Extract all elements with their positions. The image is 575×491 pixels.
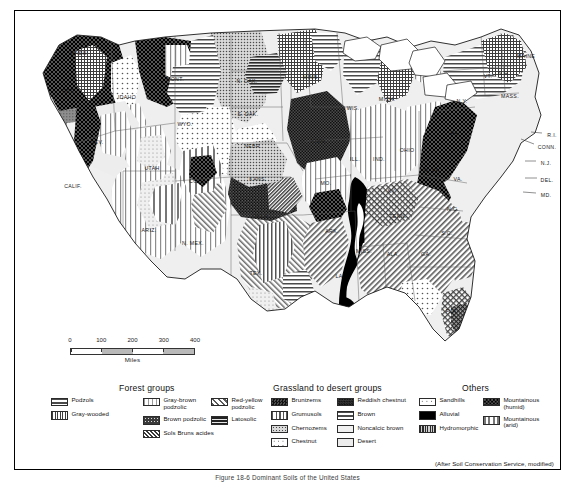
state-label: IND. — [373, 156, 385, 162]
legend-item-label: Noncalcic brown — [357, 424, 403, 431]
state-label: IDAHO — [118, 94, 136, 100]
state-label: CALIF. — [64, 183, 82, 189]
state-label: VT. — [484, 73, 493, 79]
legend-item-label: Gray-brown podzolic — [163, 397, 196, 410]
state-label: WIS. — [347, 105, 360, 111]
legend-swatch-sparse-dots-white — [419, 398, 436, 407]
state-label: TENN. — [389, 213, 406, 219]
legend-item[interactable]: Red-yellow podzolic — [211, 397, 263, 413]
scale-tick-label: 200 — [127, 337, 137, 343]
legend-column: Gray-brown podzolicBrown podzolicSols Br… — [143, 397, 214, 443]
legend-item[interactable]: Brown podzolic — [143, 416, 214, 427]
legend-item-label: Reddish chestnut — [357, 397, 406, 404]
legend-item[interactable]: Mountainous (humid) — [483, 397, 539, 413]
legend-swatch-light-dots — [337, 425, 354, 434]
legend-item[interactable]: Sandhills — [419, 397, 479, 408]
legend-item[interactable]: Gray-wooded — [51, 411, 109, 422]
state-label: ILL. — [350, 156, 360, 162]
figure-page: NEV.UTAHARIZ.COLO.N. MEX.WYO.MONT.IDAHOO… — [0, 0, 575, 491]
legend-swatch-plain-light — [337, 438, 354, 447]
state-label: S. DAK. — [238, 111, 259, 117]
legend-column: Reddish chestnutBrownNoncalcic brownDese… — [337, 397, 406, 451]
legend-item[interactable]: Hydromorphic — [419, 424, 479, 435]
state-label: DEL. — [541, 177, 554, 183]
legend-item[interactable]: Chestnut — [271, 438, 327, 449]
legend-item-label: Chestnut — [291, 438, 316, 445]
state-label: WYO. — [177, 121, 192, 127]
state-label: OKLA. — [252, 213, 269, 219]
state-label: IOWA — [310, 138, 325, 144]
state-label: MINN. — [303, 74, 319, 80]
state-label: MAINE — [517, 53, 535, 59]
legend-item[interactable]: Gray-brown podzolic — [143, 397, 214, 413]
state-label: MISS. — [356, 248, 372, 254]
legend-item-label: Brown podzolic — [163, 416, 206, 423]
state-label: ARK. — [325, 228, 339, 234]
soil-map: NEV.UTAHARIZ.COLO.N. MEX.WYO.MONT.IDAHOO… — [15, 11, 560, 381]
state-label: UTAH — [144, 165, 159, 171]
state-label: S.C. — [441, 230, 453, 236]
legend-swatch-dark-speckle — [143, 416, 160, 425]
legend-item[interactable]: Reddish chestnut — [337, 397, 406, 408]
state-label: PA. — [450, 130, 459, 136]
scale-bar-graphic — [70, 348, 195, 355]
legend-item[interactable]: Mountainous (arid) — [483, 416, 539, 432]
state-label: KY. — [388, 188, 397, 194]
legend-item-label: Latosolic — [231, 416, 256, 423]
legend-item-label: Sandhills — [439, 397, 465, 404]
scale-bar: 0100200300400 Miles — [70, 337, 195, 373]
legend-swatch-horizontal-lines — [51, 398, 68, 407]
legend-swatch-vertical-lines-light — [143, 398, 160, 407]
scale-bar-ticks: 0100200300400 — [70, 337, 195, 347]
state-label: COLO. — [189, 178, 207, 184]
state-label: N.C. — [447, 206, 459, 212]
legend-item[interactable]: Chernozems — [271, 424, 327, 435]
state-label: N. DAK. — [236, 78, 257, 84]
legend-item-label: Mountainous (humid) — [503, 397, 539, 410]
state-label: N.Y. — [457, 98, 468, 104]
state-label: N. MEX. — [182, 240, 204, 246]
state-label: ARIZ. — [141, 227, 156, 233]
legend-swatch-fine-dots — [271, 425, 288, 434]
legend-item[interactable]: Podzols — [51, 397, 109, 408]
legend-section-title: Grassland to desert groups — [273, 383, 382, 393]
state-label: NEV. — [90, 139, 103, 145]
state-label: WASH. — [70, 50, 89, 56]
legend-item-label: Mountainous (arid) — [503, 416, 539, 429]
legend-item[interactable]: Noncalcic brown — [337, 424, 406, 435]
state-label: ORE. — [62, 88, 76, 94]
legend-item-label: Sols Bruns acides — [163, 429, 213, 436]
legend-column: PodzolsGray-wooded — [51, 397, 109, 424]
legend-column: Mountainous (humid)Mountainous (arid) — [483, 397, 539, 434]
legend-item-label: Desert — [357, 438, 376, 445]
legend-swatch-horizontal-lines — [337, 411, 354, 420]
state-label: N.J. — [541, 160, 552, 166]
legend-column: BrunizemsGrumusolsChernozemsChestnut — [271, 397, 327, 451]
legend-item-label: Brunizems — [291, 397, 321, 404]
legend-item[interactable]: Brown — [337, 411, 406, 422]
legend-swatch-dark-checker-coarse — [483, 398, 500, 407]
legend-item-label: Podzols — [71, 397, 93, 404]
state-label: KANS. — [249, 176, 266, 182]
legend-item[interactable]: Latosolic — [211, 416, 263, 427]
legend-column: Red-yellow podzolicLatosolic — [211, 397, 263, 429]
state-label: OHIO — [400, 147, 415, 153]
legend-swatch-fine-grid — [51, 411, 68, 420]
scale-tick-label: 300 — [159, 337, 169, 343]
legend-item[interactable]: Alluvial — [419, 411, 479, 422]
legend-item[interactable]: Grumusols — [271, 411, 327, 422]
state-label: FLA. — [446, 308, 458, 314]
source-credit: (After Soil Conservation Service, modifi… — [435, 460, 554, 467]
legend-item[interactable]: Desert — [337, 438, 406, 449]
legend-item[interactable]: Sols Bruns acides — [143, 429, 214, 440]
legend-section-title: Others — [462, 383, 489, 393]
state-label: TEX. — [250, 270, 263, 276]
state-label: ALA. — [387, 251, 400, 257]
legend-item-label: Hydromorphic — [439, 424, 478, 431]
legend-item-label: Grumusols — [291, 411, 321, 418]
soil-regions — [15, 11, 560, 381]
state-label: NEBR. — [244, 143, 262, 149]
state-label: W. VA. — [423, 167, 441, 173]
legend-item-label: Chernozems — [291, 424, 327, 431]
legend-item[interactable]: Brunizems — [271, 397, 327, 408]
